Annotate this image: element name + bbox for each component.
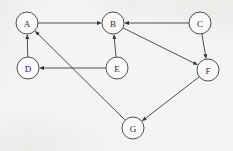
edge-d-a-arrowhead-icon [25, 34, 29, 39]
edge-a-b-arrowhead-icon [97, 21, 102, 25]
edge-c-f [202, 34, 206, 56]
edge-c-b-arrowhead-icon [124, 21, 129, 25]
edge-b-f-arrowhead-icon [193, 61, 198, 65]
node-label-c: C [197, 19, 203, 29]
graph-canvas: ABCDEFG [0, 0, 233, 151]
node-label-b: B [110, 19, 116, 29]
node-label-a: A [24, 19, 31, 29]
graph-node-b[interactable]: B [102, 12, 124, 34]
node-label-d: D [25, 64, 32, 74]
graph-node-f[interactable]: F [197, 59, 219, 81]
edge-f-g [145, 77, 200, 119]
graph-node-e[interactable]: E [106, 57, 128, 79]
edge-c-f-arrowhead-icon [203, 54, 207, 59]
edge-b-f [123, 28, 195, 64]
node-label-g: G [130, 124, 137, 134]
graph-node-a[interactable]: A [16, 12, 38, 34]
edge-e-b [114, 38, 116, 58]
graph-node-c[interactable]: C [189, 12, 211, 34]
graph-node-g[interactable]: G [122, 117, 144, 139]
edge-e-b-arrowhead-icon [113, 34, 117, 39]
nodes-layer: ABCDEFG [16, 12, 219, 139]
graph-diagram: ABCDEFG [0, 0, 233, 151]
graph-node-d[interactable]: D [17, 57, 39, 79]
edge-e-d-arrowhead-icon [39, 66, 44, 70]
node-label-f: F [205, 66, 210, 76]
node-label-e: E [114, 64, 120, 74]
